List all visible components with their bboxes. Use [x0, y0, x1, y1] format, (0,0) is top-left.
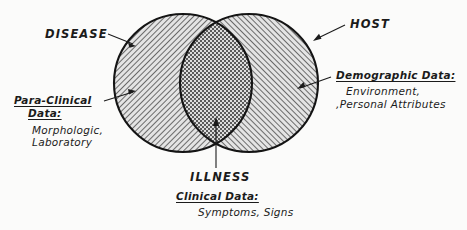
label-host: HOST [350, 17, 390, 31]
annotation-para-clinical: Para-Clinical Data: Morphologic, Laborat… [14, 94, 103, 149]
arrowhead-host [313, 34, 322, 41]
annotation-para-clinical-detail-line2: Laboratory [14, 136, 103, 149]
annotation-clinical: Clinical Data: Symptoms, Signs [176, 190, 294, 219]
annotation-para-clinical-detail-line1: Morphologic, [14, 120, 103, 137]
annotation-demographic-heading-line1: Demographic Data: [336, 69, 455, 82]
venn-diagram-figure: DISEASE HOST ILLNESS Para-Clinical Data:… [0, 0, 467, 230]
label-disease: DISEASE [45, 27, 108, 41]
annotation-demographic-detail-line1: Environment, [336, 82, 455, 98]
annotation-para-clinical-heading-line2: Data: [14, 107, 103, 120]
annotation-clinical-heading-line1: Clinical Data: [176, 190, 294, 203]
annotation-para-clinical-heading-line1: Para-Clinical [14, 94, 103, 107]
label-illness: ILLNESS [190, 170, 250, 184]
annotation-demographic-detail-line2: ,Personal Attributes [336, 98, 455, 111]
annotation-clinical-detail-line1: Symptoms, Signs [176, 203, 294, 219]
annotation-demographic: Demographic Data: Environment, ,Personal… [336, 69, 455, 110]
